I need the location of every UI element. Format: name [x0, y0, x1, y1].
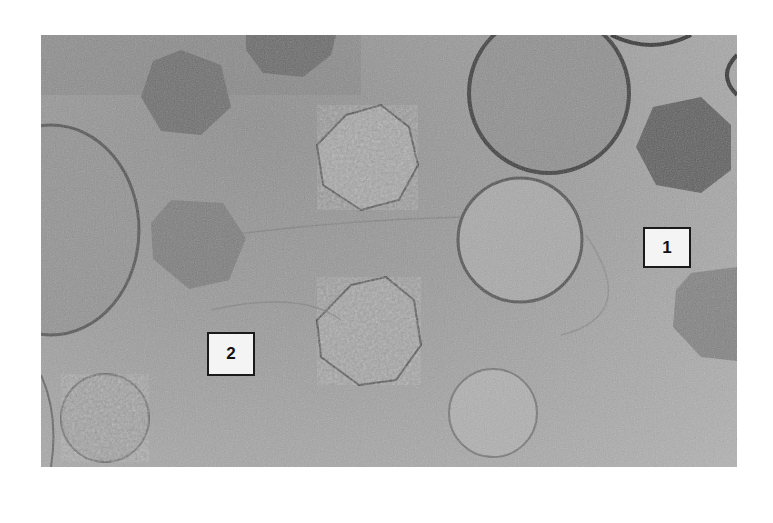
label-2-text: 2	[226, 344, 235, 364]
cryo-em-micrograph	[41, 35, 737, 467]
label-1-text: 1	[662, 238, 671, 258]
annotation-label-1: 1	[643, 227, 691, 268]
micrograph-image	[41, 35, 737, 467]
annotation-label-2: 2	[207, 332, 255, 376]
